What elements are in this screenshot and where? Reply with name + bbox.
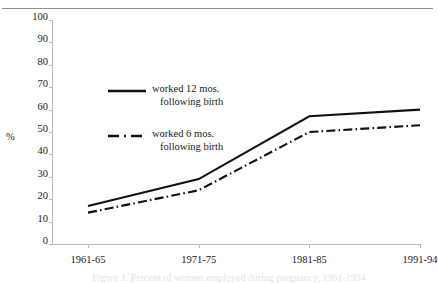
legend-label-line1: worked 12 mos. <box>152 83 219 94</box>
legend-label-line1: worked 6 mos. <box>152 128 214 139</box>
chart-legend: worked 12 mos. following birth worked 6 … <box>108 82 278 157</box>
legend-entry: worked 6 mos. following birth <box>108 127 278 157</box>
legend-label: worked 6 mos. following birth <box>152 127 223 153</box>
figure-caption: Figure 1. Percent of women employed duri… <box>64 272 394 283</box>
legend-label-line2: following birth <box>152 95 223 108</box>
legend-label-line2: following birth <box>152 140 223 153</box>
legend-entry: worked 12 mos. following birth <box>108 82 278 112</box>
legend-label: worked 12 mos. following birth <box>152 82 223 108</box>
